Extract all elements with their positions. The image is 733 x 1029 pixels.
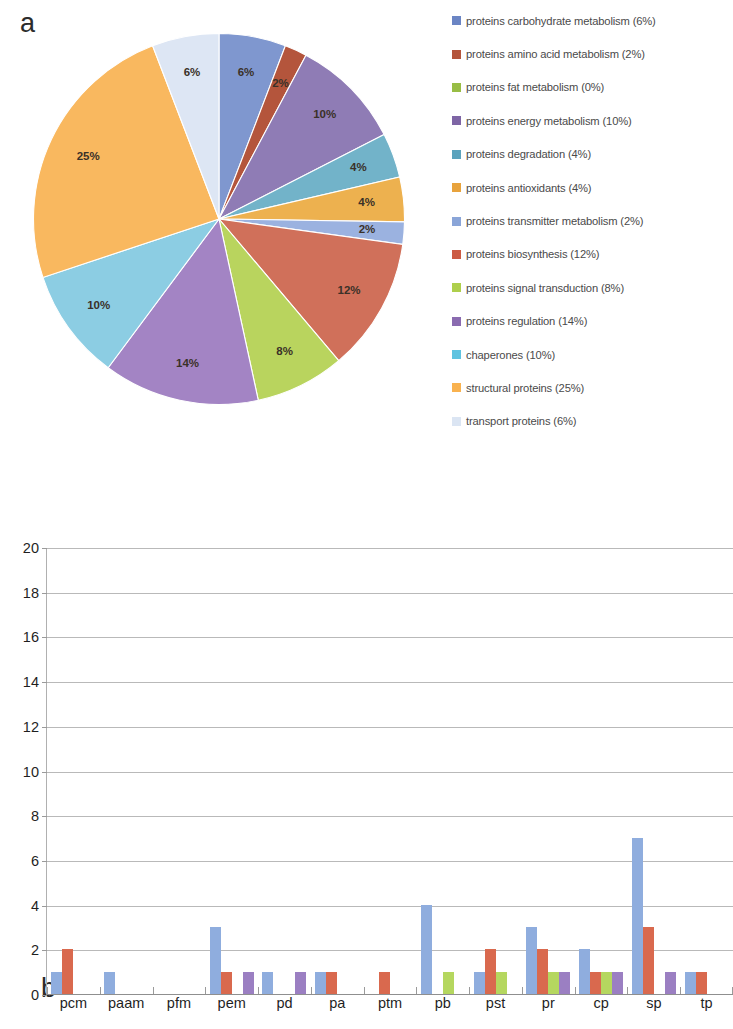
x-axis-category-label: pfm (153, 995, 206, 1011)
legend-color-swatch-icon (452, 417, 461, 426)
y-axis-tick-label: 12 (23, 719, 39, 735)
legend-item-label: proteins regulation (14%) (466, 315, 587, 327)
x-axis-category-label: pst (469, 995, 522, 1011)
x-axis-tick (258, 987, 311, 994)
y-axis-tick-label: 2 (31, 942, 39, 958)
legend-item: proteins amino acid metabolism (2%) (452, 37, 733, 70)
x-axis-tick (575, 987, 628, 994)
legend-color-swatch-icon (452, 116, 461, 125)
pie-slice-group (33, 34, 404, 405)
x-axis-tick (416, 987, 469, 994)
y-axis-tick-label: 0 (31, 987, 39, 1003)
legend-item-label: proteins fat metabolism (0%) (466, 81, 604, 93)
y-axis-tick-label: 16 (23, 629, 39, 645)
legend-color-swatch-icon (452, 250, 461, 259)
x-axis-category-label: sp (627, 995, 680, 1011)
legend-item-label: proteins amino acid metabolism (2%) (466, 48, 645, 60)
x-axis-category-label: pem (205, 995, 258, 1011)
pie-data-label: 6% (184, 66, 201, 78)
legend-item-label: proteins energy metabolism (10%) (466, 115, 632, 127)
x-axis-category-label: pb (416, 995, 469, 1011)
panel-b-bar-chart: b 02468101214161820 pcmpaampfmpempdpaptm… (0, 470, 733, 1029)
x-axis-category-label: pd (258, 995, 311, 1011)
pie-data-label: 8% (276, 345, 293, 357)
legend-item: proteins regulation (14%) (452, 305, 733, 338)
bar-group (311, 548, 364, 994)
x-axis-tick (469, 987, 522, 994)
legend-item: transport proteins (6%) (452, 405, 733, 438)
x-axis-category-label: pr (522, 995, 575, 1011)
panel-a-pie-chart: a 6%2%10%4%4%2%12%8%14%10%25%6% proteins… (0, 0, 733, 470)
bar-group (205, 548, 258, 994)
bar-group (627, 548, 680, 994)
legend-item: proteins signal transduction (8%) (452, 271, 733, 304)
legend-item: proteins carbohydrate metabolism (6%) (452, 4, 733, 37)
bar-group (575, 548, 628, 994)
pie-data-label: 2% (272, 77, 289, 89)
y-axis-tick-label: 4 (31, 898, 39, 914)
x-axis-label-group: pcmpaampfmpempdpaptmpbpstprcpsptp (47, 995, 733, 1011)
legend-color-swatch-icon (452, 283, 461, 292)
legend-color-swatch-icon (452, 50, 461, 59)
legend-item: proteins degradation (4%) (452, 138, 733, 171)
x-axis-category-label: pcm (47, 995, 100, 1011)
x-axis-category-label: paam (100, 995, 153, 1011)
bar-group (153, 548, 206, 994)
x-axis-tick (627, 987, 680, 994)
pie-data-label: 10% (87, 299, 110, 311)
legend-color-swatch-icon (452, 83, 461, 92)
legend-color-swatch-icon (452, 16, 461, 25)
legend-item-label: proteins antioxidants (4%) (466, 182, 591, 194)
y-axis-tick-label: 20 (23, 540, 39, 556)
bar-group (416, 548, 469, 994)
bar (210, 927, 221, 994)
bar-group (364, 548, 417, 994)
y-axis-tick-label: 6 (31, 853, 39, 869)
y-axis-tick-label: 18 (23, 585, 39, 601)
legend-item: proteins antioxidants (4%) (452, 171, 733, 204)
x-axis-category-label: ptm (364, 995, 417, 1011)
x-axis-tick (153, 987, 206, 994)
legend-item-label: proteins degradation (4%) (466, 148, 591, 160)
legend-item: proteins fat metabolism (0%) (452, 71, 733, 104)
x-axis-tick-group (47, 987, 733, 994)
legend-item: chaperones (10%) (452, 338, 733, 371)
bar (421, 905, 432, 994)
legend-color-swatch-icon (452, 383, 461, 392)
bar-chart-plot-area: 02468101214161820 (46, 548, 733, 995)
bar-group (469, 548, 522, 994)
bar-group (680, 548, 733, 994)
bar-group-container (47, 548, 733, 994)
pie-data-label: 4% (350, 161, 367, 173)
x-axis-category-label: pa (311, 995, 364, 1011)
pie-data-label: 4% (358, 196, 375, 208)
pie-data-label: 25% (77, 150, 100, 162)
x-axis-tick (522, 987, 575, 994)
bar (632, 838, 643, 994)
x-axis-category-label: cp (575, 995, 628, 1011)
x-axis-tick (364, 987, 417, 994)
bar (526, 927, 537, 994)
legend-item: proteins energy metabolism (10%) (452, 104, 733, 137)
legend-item-label: transport proteins (6%) (466, 415, 576, 427)
legend-color-swatch-icon (452, 350, 461, 359)
legend-item: proteins biosynthesis (12%) (452, 238, 733, 271)
pie-data-label: 6% (238, 66, 255, 78)
legend-color-swatch-icon (452, 150, 461, 159)
legend-color-swatch-icon (452, 217, 461, 226)
x-axis-tick (311, 987, 364, 994)
pie-legend: proteins carbohydrate metabolism (6%)pro… (452, 4, 733, 438)
y-axis-tick-label: 10 (23, 764, 39, 780)
legend-item-label: chaperones (10%) (466, 349, 555, 361)
bar-group (47, 548, 100, 994)
bar-group (522, 548, 575, 994)
pie-data-label: 10% (313, 108, 336, 120)
pie-data-label: 14% (176, 357, 199, 369)
legend-item: structural proteins (25%) (452, 371, 733, 404)
legend-color-swatch-icon (452, 317, 461, 326)
bar-group (100, 548, 153, 994)
pie-data-label: 12% (337, 284, 360, 296)
legend-color-swatch-icon (452, 183, 461, 192)
bar-group (258, 548, 311, 994)
y-axis-tick-label: 8 (31, 808, 39, 824)
